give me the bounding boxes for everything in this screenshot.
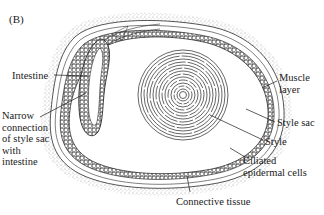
label-narrow-connection: Narrow connection of style sac with inte… xyxy=(2,110,49,168)
panel-label: (B) xyxy=(9,14,24,26)
style-sac-cross-section-figure: (B) Intestine Narrow connection of style… xyxy=(0,0,324,215)
label-ciliated-epidermal-cells: Ciliated epidermal cells xyxy=(243,155,307,178)
label-muscle-layer: Muscle layer xyxy=(279,72,310,95)
label-connective-tissue: Connective tissue xyxy=(176,196,250,208)
cross-section-drawing xyxy=(0,0,324,215)
label-style-sac: Style sac xyxy=(277,117,315,129)
label-style: Style xyxy=(265,136,287,148)
label-intestine: Intestine xyxy=(12,70,48,82)
